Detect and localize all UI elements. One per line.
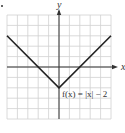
- y-axis-label: y: [56, 0, 62, 10]
- x-axis-arrow-icon: [112, 65, 118, 69]
- x-axis-label: x: [120, 61, 125, 72]
- function-graph: x y f(x) = |x| − 2: [0, 0, 125, 133]
- equation-label: f(x) = |x| − 2: [62, 89, 107, 99]
